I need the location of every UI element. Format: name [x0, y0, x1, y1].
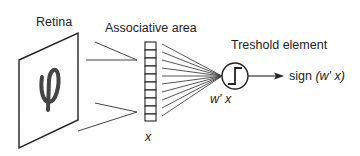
retina-label: Retina [36, 16, 72, 29]
threshold-element-label: Treshold element [231, 39, 327, 52]
input-vector-label: x [145, 131, 151, 144]
weighted-sum-label: w' x [210, 93, 231, 106]
associative-area-label: Associative area [105, 22, 197, 35]
retina-to-assoc-lines [78, 42, 137, 131]
output-arrow-icon [248, 73, 284, 80]
output-argument: (w' x) [315, 69, 344, 83]
output-label: sign (w' x) [289, 70, 345, 83]
associative-cells [145, 42, 156, 121]
output-function: sign [289, 69, 312, 83]
